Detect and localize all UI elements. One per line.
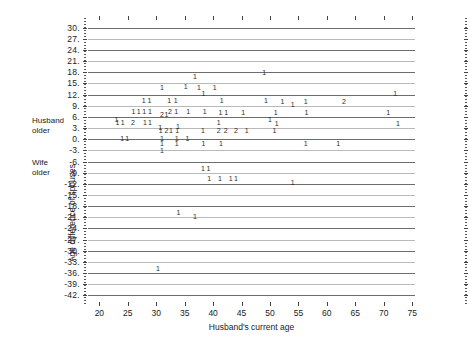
- y-tick-label: -27.: [64, 235, 80, 245]
- gridline-y: [88, 240, 415, 241]
- y-tick-mark: [83, 295, 87, 296]
- gridline-y: [88, 128, 415, 129]
- x-axis-top: [88, 17, 472, 19]
- gridline-y: [88, 150, 415, 151]
- x-tick-mark: [270, 302, 271, 306]
- x-tick-label: 25: [123, 308, 132, 318]
- data-point-marker: 1: [165, 110, 169, 117]
- data-point-marker: 1: [174, 97, 178, 104]
- x-tick-mark: [185, 302, 186, 306]
- x-tick-mark: [242, 16, 243, 20]
- y-tick-mark: [83, 106, 87, 107]
- data-point-marker: 1: [304, 109, 308, 116]
- y-tick-label: 6.: [72, 112, 80, 122]
- x-tick-mark: [99, 16, 100, 20]
- x-tick-label: 75: [407, 308, 416, 318]
- y-tick-mark-right: [464, 72, 468, 73]
- data-point-marker: 2: [131, 119, 135, 126]
- x-tick-mark: [327, 16, 328, 20]
- data-point-marker: 1: [125, 135, 129, 142]
- data-point-marker: 1: [245, 127, 249, 134]
- data-point-marker: 1: [281, 97, 285, 104]
- data-point-marker: 1: [304, 98, 308, 105]
- data-point-marker: 1: [148, 107, 152, 114]
- y-tick-mark-right: [464, 50, 468, 51]
- gridline-y: [88, 117, 415, 118]
- data-point-marker: 1: [262, 69, 266, 76]
- data-point-marker: 1: [207, 165, 211, 172]
- data-point-marker: 1: [142, 107, 146, 114]
- data-point-marker: 1: [116, 119, 120, 126]
- data-point-marker: 1: [274, 109, 278, 116]
- y-tick-label: 12.: [67, 90, 80, 100]
- x-tick-mark: [355, 16, 356, 20]
- x-tick-label: 60: [322, 308, 331, 318]
- data-point-marker: 1: [167, 97, 171, 104]
- gridline-y: [88, 184, 415, 185]
- gridline-y: [88, 162, 415, 163]
- data-point-marker: 1: [176, 208, 180, 215]
- data-point-marker: 1: [201, 139, 205, 146]
- data-point-marker: 1: [218, 174, 222, 181]
- data-point-marker: 1: [336, 139, 340, 146]
- y-tick-mark: [83, 273, 87, 274]
- gridline-y: [88, 50, 415, 51]
- plot-area: 1111111111111111121111221111111111111211…: [88, 22, 415, 301]
- y-tick-mark: [83, 61, 87, 62]
- gridline-y: [88, 39, 415, 40]
- gridline-y: [88, 262, 415, 263]
- data-point-marker: 1: [201, 90, 205, 97]
- data-point-marker: 1: [175, 139, 179, 146]
- y-tick-mark: [83, 28, 87, 29]
- x-tick-label: 45: [237, 308, 246, 318]
- y-tick-mark: [83, 95, 87, 96]
- x-tick-mark: [213, 16, 214, 20]
- x-tick-mark: [128, 16, 129, 20]
- y-tick-mark-right: [464, 262, 468, 263]
- y-tick-label: 24.: [67, 45, 80, 55]
- x-tick-mark: [412, 16, 413, 20]
- y-tick-mark-right: [464, 150, 468, 151]
- y-tick-mark-right: [464, 217, 468, 218]
- x-tick-mark: [384, 16, 385, 20]
- x-tick-mark: [128, 302, 129, 306]
- y-tick-label: -36.: [64, 268, 80, 278]
- y-tick-mark-right: [464, 61, 468, 62]
- y-tick-label: 27.: [67, 34, 80, 44]
- y-tick-mark-right: [464, 162, 468, 163]
- y-tick-mark-right: [464, 240, 468, 241]
- y-tick-label: -21.: [64, 212, 80, 222]
- y-tick-mark: [83, 217, 87, 218]
- data-point-marker: 1: [291, 178, 295, 185]
- gridline-y: [88, 295, 415, 296]
- y-tick-label: 30.: [67, 23, 80, 33]
- y-tick-mark-right: [464, 184, 468, 185]
- y-tick-mark-right: [464, 117, 468, 118]
- data-point-marker: 1: [137, 107, 141, 114]
- y-tick-mark: [83, 162, 87, 163]
- x-tick-label: 35: [180, 308, 189, 318]
- x-tick-mark: [99, 302, 100, 306]
- y-tick-mark-right: [464, 228, 468, 229]
- data-point-marker: 2: [217, 127, 221, 134]
- data-point-marker: 1: [197, 83, 201, 90]
- x-tick-mark: [298, 302, 299, 306]
- data-point-marker: 1: [220, 97, 224, 104]
- data-point-marker: 1: [159, 127, 163, 134]
- x-tick-mark: [298, 16, 299, 20]
- y-tick-mark: [83, 139, 87, 140]
- y-tick-mark: [83, 72, 87, 73]
- x-tick-label: 70: [379, 308, 388, 318]
- x-tick-mark: [156, 16, 157, 20]
- y-tick-mark: [83, 173, 87, 174]
- data-point-marker: 1: [275, 120, 279, 127]
- y-tick-mark: [83, 240, 87, 241]
- data-point-marker: 2: [165, 127, 169, 134]
- x-tick-mark: [355, 302, 356, 306]
- x-tick-label: 30: [152, 308, 161, 318]
- y-tick-mark: [83, 83, 87, 84]
- data-point-marker: 1: [219, 108, 223, 115]
- data-point-marker: 1: [193, 213, 197, 220]
- y-tick-mark-right: [464, 206, 468, 207]
- data-point-marker: 1: [224, 108, 228, 115]
